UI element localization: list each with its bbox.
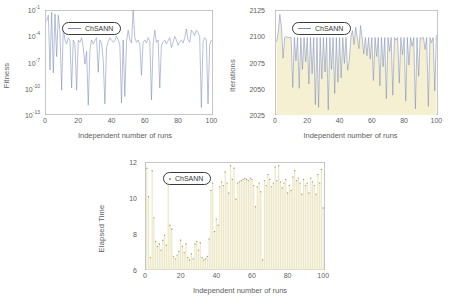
y-tick-label: 2125	[249, 7, 265, 14]
x-tick-label: 60	[141, 117, 149, 124]
x-tick-label: 80	[284, 272, 292, 279]
iterations-legend-label: ChSANN	[315, 25, 343, 32]
x-tick-label: 40	[212, 272, 220, 279]
elapsed-legend: ChSANN	[163, 172, 211, 185]
y-tick-label: 10	[129, 195, 137, 202]
fitness-legend-label: ChSANN	[85, 25, 113, 32]
fitness-legend: ChSANN	[62, 22, 121, 35]
x-tick-label: 40	[336, 117, 344, 124]
elapsed-y-axis-label: Elapsed Time	[95, 152, 109, 304]
chart-panel-iterations: Iterations 21252100207520502025 02040608…	[225, 0, 451, 150]
dot-marker-icon	[169, 178, 171, 180]
x-tick-label: 0	[43, 117, 47, 124]
elapsed-x-tick-labels: 020406080100	[145, 272, 325, 284]
elapsed-legend-label: ChSANN	[175, 175, 203, 182]
fitness-x-axis-label: Independent number of runs	[30, 131, 220, 140]
chart-panel-elapsed-time: Elapsed Time 121086 020406080100 Indepen…	[95, 152, 370, 304]
x-tick-label: 60	[368, 117, 376, 124]
x-tick-label: 0	[143, 272, 147, 279]
line-marker-icon	[68, 28, 81, 29]
x-tick-label: 80	[174, 117, 182, 124]
line-marker-icon	[298, 28, 311, 29]
x-tick-label: 20	[74, 117, 82, 124]
chart-panel-fitness: Fitness 10-110-410-710-1010-13 020406080…	[0, 0, 225, 150]
iterations-x-tick-labels: 020406080100	[275, 117, 438, 129]
y-tick-label: 12	[129, 159, 137, 166]
y-tick-label: 2025	[249, 112, 265, 119]
y-tick-label: 6	[133, 267, 137, 274]
x-tick-label: 0	[273, 117, 277, 124]
y-tick-label: 8	[133, 231, 137, 238]
y-tick-label: 2050	[249, 85, 265, 92]
iterations-plot-area: Iterations 21252100207520502025 02040608…	[225, 0, 451, 150]
y-tick-label: 2100	[249, 33, 265, 40]
elapsed-plot-area: Elapsed Time 121086 020406080100 Indepen…	[95, 152, 370, 304]
y-tick-label: 10-7	[28, 59, 40, 66]
fitness-x-tick-labels: 020406080100	[45, 117, 213, 129]
y-tick-label: 10-1	[28, 7, 40, 14]
x-tick-label: 40	[108, 117, 116, 124]
elapsed-y-tick-labels: 121086	[109, 152, 139, 304]
iterations-x-axis-label: Independent number of runs	[255, 131, 446, 140]
x-tick-label: 100	[317, 272, 329, 279]
fitness-plot-area: Fitness 10-110-410-710-1010-13 020406080…	[0, 0, 225, 150]
fitness-y-tick-labels: 10-110-410-710-1010-13	[12, 0, 42, 150]
iterations-y-tick-labels: 21252100207520502025	[237, 0, 267, 150]
y-tick-label: 10-10	[25, 85, 40, 92]
y-tick-label: 10-4	[28, 33, 40, 40]
y-tick-label: 2075	[249, 59, 265, 66]
elapsed-x-axis-label: Independent number of runs	[115, 286, 365, 295]
x-tick-label: 20	[303, 117, 311, 124]
iterations-legend: ChSANN	[292, 22, 351, 35]
x-tick-label: 60	[248, 272, 256, 279]
x-tick-label: 20	[177, 272, 185, 279]
y-tick-label: 10-13	[25, 112, 40, 119]
x-tick-label: 80	[400, 117, 408, 124]
x-tick-label: 100	[205, 117, 217, 124]
x-tick-label: 100	[431, 117, 443, 124]
